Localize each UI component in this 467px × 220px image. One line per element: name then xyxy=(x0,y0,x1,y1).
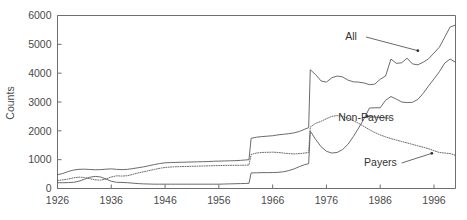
line-chart: 0100020003000400050006000 19261936194619… xyxy=(0,0,467,220)
series-annotations: AllNon-PayersPayers xyxy=(338,30,433,168)
series-line-payers xyxy=(58,116,456,181)
annotation-label-non-payers: Non-Payers xyxy=(338,111,393,123)
x-tick-label: 1986 xyxy=(369,194,393,206)
x-tick-label: 1976 xyxy=(315,194,339,206)
y-tick-label: 3000 xyxy=(28,96,52,108)
x-tick-label: 1936 xyxy=(100,194,124,206)
x-tick-label: 1966 xyxy=(261,194,285,206)
x-tick-label: 1956 xyxy=(207,194,231,206)
y-tick-label: 0 xyxy=(46,182,52,194)
y-tick-label: 1000 xyxy=(28,153,52,165)
y-axis-title: Counts xyxy=(4,86,16,119)
annotation-leader-line xyxy=(366,37,418,51)
series-line-all xyxy=(58,25,456,175)
y-tick-label: 4000 xyxy=(28,67,52,79)
x-axis-ticks xyxy=(58,185,434,189)
y-tick-label: 6000 xyxy=(28,9,52,21)
annotation-leader-line xyxy=(402,153,432,163)
annotation-point-marker xyxy=(430,152,433,155)
y-axis-tick-labels: 0100020003000400050006000 xyxy=(28,9,52,194)
annotation-point-marker xyxy=(416,49,419,52)
y-tick-label: 5000 xyxy=(28,38,52,50)
chart-figure: 0100020003000400050006000 19261936194619… xyxy=(0,0,467,220)
annotation-label-all: All xyxy=(345,30,357,42)
x-axis-tick-labels: 19261936194619561966197619861996 xyxy=(46,194,446,206)
y-tick-label: 2000 xyxy=(28,125,52,137)
x-tick-label: 1926 xyxy=(46,194,70,206)
x-tick-label: 1996 xyxy=(422,194,446,206)
annotation-label-payers: Payers xyxy=(364,156,397,168)
x-tick-label: 1946 xyxy=(153,194,177,206)
y-axis-ticks xyxy=(58,16,62,189)
